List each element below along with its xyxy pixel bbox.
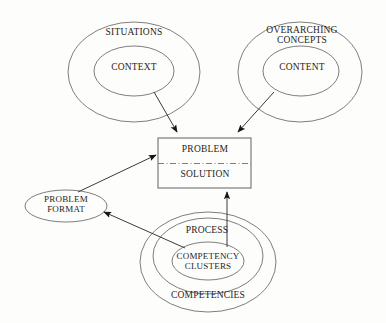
competency-clusters-inner-ellipse	[172, 242, 244, 280]
edge-problem-format-to-problem	[78, 155, 156, 192]
problem-format-ellipse	[25, 190, 107, 222]
edge-clusters-to-problem-format	[104, 212, 185, 248]
competencies-outer-ellipse	[140, 212, 276, 312]
edge-content-to-problem	[238, 92, 274, 132]
diagram-graphics	[0, 0, 386, 323]
process-mid-ellipse	[153, 218, 263, 294]
problem-solution-box	[158, 138, 251, 188]
situations-outer-ellipse	[68, 22, 200, 122]
context-inner-ellipse	[94, 46, 174, 96]
diagram-canvas: SITUATIONS CONTEXT OVERARCHING CONCEPTS …	[0, 0, 386, 323]
overarching-concepts-outer-ellipse	[238, 22, 362, 122]
content-inner-ellipse	[263, 46, 339, 96]
